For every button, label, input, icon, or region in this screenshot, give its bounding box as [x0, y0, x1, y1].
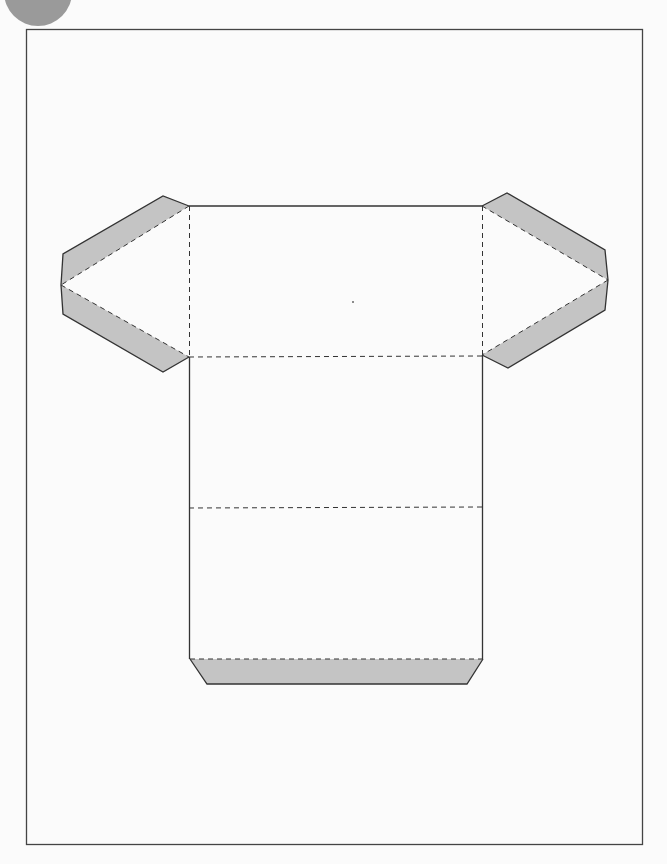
right-flap-upper-strip	[482, 193, 608, 280]
fold-line-middle	[189, 507, 482, 508]
fold-line-top	[189, 356, 482, 357]
right-flap	[482, 193, 608, 368]
left-flap-upper-strip	[61, 196, 189, 285]
bottom-tab	[190, 659, 483, 684]
bottom-tab-fill	[190, 659, 483, 684]
speck-mark	[352, 301, 354, 303]
right-flap-lower-strip	[482, 280, 608, 368]
net-diagram	[0, 0, 667, 864]
page-frame	[27, 30, 643, 845]
corner-circle-decoration	[4, 0, 72, 26]
main-body	[189, 206, 483, 659]
left-flap-lower-strip	[61, 285, 189, 372]
left-flap	[61, 196, 189, 372]
